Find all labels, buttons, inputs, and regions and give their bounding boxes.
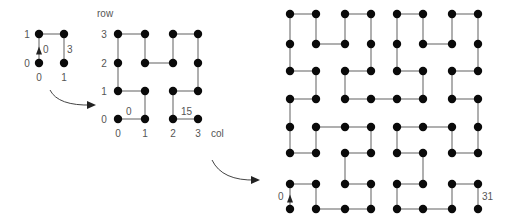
grid-node <box>419 95 427 103</box>
curve-index-label: 0 <box>126 106 132 117</box>
grid-node <box>194 115 202 123</box>
grid-node <box>474 40 482 48</box>
grid-node <box>114 115 122 123</box>
grid-order-2: 01230123rowcol015 <box>97 8 224 139</box>
row-label: 0 <box>101 114 107 125</box>
grid-node <box>169 30 177 38</box>
grid-node <box>286 40 294 48</box>
arrow-order1-to-order2 <box>50 90 96 109</box>
grid-node <box>393 205 401 213</box>
grid-node <box>341 10 349 18</box>
grid-node <box>419 67 427 75</box>
grid-node <box>60 30 68 38</box>
start-arrow-icon <box>287 195 293 203</box>
grid-node <box>419 40 427 48</box>
grid-node <box>286 180 294 188</box>
col-label: 0 <box>36 72 42 83</box>
grid-node <box>341 205 349 213</box>
grid-node <box>367 67 375 75</box>
grid-node <box>312 205 320 213</box>
grid-node <box>367 10 375 18</box>
grid-node <box>419 149 427 157</box>
grid-node <box>474 123 482 131</box>
grid-node <box>312 149 320 157</box>
grid-node <box>114 87 122 95</box>
grid-node <box>393 40 401 48</box>
grid-node <box>194 59 202 67</box>
grid-node <box>367 95 375 103</box>
grid-node <box>474 95 482 103</box>
col-label: 0 <box>115 128 121 139</box>
grid-node <box>474 180 482 188</box>
col-label: 1 <box>142 128 148 139</box>
grid-node <box>35 30 43 38</box>
grid-order-3: 031 <box>278 10 494 213</box>
grid-node <box>286 123 294 131</box>
curve-index-label: 0 <box>43 44 49 55</box>
row-label: 2 <box>101 58 107 69</box>
grid-node <box>169 87 177 95</box>
hilbert-curve-svg: 01010301230123rowcol015031 <box>0 0 513 224</box>
grid-node <box>419 10 427 18</box>
grid-node <box>286 10 294 18</box>
grid-node <box>367 180 375 188</box>
arrowhead-icon <box>251 176 260 184</box>
grid-node <box>448 123 456 131</box>
grid-node <box>312 180 320 188</box>
row-label: 3 <box>101 29 107 40</box>
grid-node <box>448 95 456 103</box>
grid-node <box>312 40 320 48</box>
grid-node <box>341 95 349 103</box>
grid-node <box>474 205 482 213</box>
grid-node <box>341 123 349 131</box>
grid-node <box>393 180 401 188</box>
curve-index-label: 3 <box>67 44 73 55</box>
grid-node <box>419 180 427 188</box>
arrow-order2-to-order3 <box>212 160 260 184</box>
grid-node <box>393 67 401 75</box>
grid-node <box>341 40 349 48</box>
grid-node <box>60 59 68 67</box>
grid-node <box>286 205 294 213</box>
grid-node <box>114 30 122 38</box>
grid-node <box>419 205 427 213</box>
grid-node <box>341 67 349 75</box>
row-axis-title: row <box>97 8 114 19</box>
grid-node <box>448 67 456 75</box>
grid-node <box>312 67 320 75</box>
row-label: 1 <box>24 29 30 40</box>
col-axis-title: col <box>211 128 224 139</box>
start-arrow-icon <box>36 47 42 55</box>
grid-node <box>393 123 401 131</box>
curve-index-label: 15 <box>181 106 193 117</box>
grid-node <box>194 30 202 38</box>
row-label: 1 <box>101 86 107 97</box>
grid-node <box>393 95 401 103</box>
grid-node <box>393 149 401 157</box>
grid-node <box>141 87 149 95</box>
grid-node <box>141 30 149 38</box>
curved-arrow-line <box>50 90 92 105</box>
grid-node <box>169 59 177 67</box>
grid-node <box>312 123 320 131</box>
grid-node <box>312 10 320 18</box>
grid-node <box>194 87 202 95</box>
col-label: 3 <box>195 128 201 139</box>
grid-node <box>448 10 456 18</box>
grid-node <box>312 95 320 103</box>
grid-node <box>35 59 43 67</box>
grid-node <box>114 59 122 67</box>
grid-node <box>474 67 482 75</box>
grid-node <box>286 95 294 103</box>
grid-order-1: 010103 <box>24 29 73 83</box>
grid-node <box>341 149 349 157</box>
hilbert-curve-diagram: 01010301230123rowcol015031 <box>0 0 513 224</box>
grid-node <box>448 205 456 213</box>
col-label: 1 <box>61 72 67 83</box>
grid-node <box>367 40 375 48</box>
grid-node <box>286 67 294 75</box>
grid-node <box>448 180 456 188</box>
curve-index-label: 31 <box>482 191 494 202</box>
grid-node <box>367 149 375 157</box>
grid-node <box>286 149 294 157</box>
